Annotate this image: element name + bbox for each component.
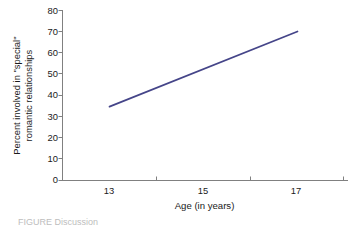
y-tick-marks: [59, 11, 63, 181]
figure-caption-fragment: FIGURE Discussion: [18, 218, 348, 225]
x-axis-label: Age (in years): [62, 200, 347, 211]
x-tick-label-13: 13: [94, 186, 124, 195]
x-tick-marks: [63, 177, 344, 181]
x-tick-label-15: 15: [188, 186, 218, 195]
figure-container: Percent involved in "special" romantic r…: [0, 0, 362, 225]
x-tick-label-17: 17: [281, 186, 311, 195]
data-series-line: [110, 32, 298, 107]
